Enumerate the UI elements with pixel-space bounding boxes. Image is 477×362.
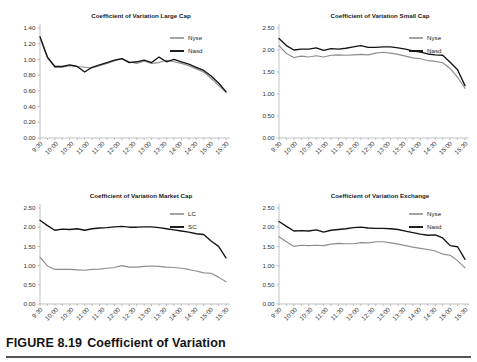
x-tick-label: 15:30	[453, 139, 469, 155]
x-tick-label: 14:00	[406, 305, 422, 321]
y-tick-label: 1.50	[23, 243, 36, 250]
x-tick-label: 14:30	[422, 139, 438, 155]
y-tick-label: 2.50	[262, 24, 275, 31]
x-tick-label: 13:00	[136, 305, 152, 321]
x-tick-label: 11:00	[314, 305, 330, 321]
x-tick-label: 11:00	[75, 139, 91, 155]
x-tick-label: 14:30	[183, 139, 199, 155]
x-tick-label: 10:30	[298, 139, 314, 155]
x-tick-label: 13:30	[152, 139, 168, 155]
x-tick-label: 9:30	[269, 139, 283, 153]
y-tick-label: 0.00	[262, 134, 275, 141]
series-line-sc	[40, 220, 226, 258]
x-tick-label: 12:30	[121, 305, 137, 321]
y-tick-label: 0.50	[262, 281, 275, 288]
figure-caption: FIGURE 8.19Coefficient of Variation	[0, 336, 477, 362]
y-tick-label: 2.50	[262, 204, 275, 211]
x-tick-label: 15:00	[198, 139, 214, 155]
series-line-nasd	[40, 37, 226, 92]
y-tick-label: 1.00	[262, 262, 275, 269]
chart-title: Coefficient of Variation Large Cap	[91, 12, 191, 19]
x-tick-label: 10:30	[298, 305, 314, 321]
x-tick-label: 12:00	[105, 305, 121, 321]
y-tick-label: 0.50	[262, 112, 275, 119]
x-tick-label: 12:00	[344, 305, 360, 321]
x-tick-label: 14:00	[167, 139, 183, 155]
x-tick-label: 10:00	[282, 139, 298, 155]
x-tick-label: 13:30	[152, 305, 168, 321]
y-tick-label: 0.50	[23, 281, 36, 288]
x-tick-label: 14:30	[422, 305, 438, 321]
x-tick-label: 15:00	[437, 139, 453, 155]
x-tick-label: 10:00	[282, 305, 298, 321]
x-tick-label: 12:30	[360, 305, 376, 321]
legend-label-nasd: Nasd	[188, 47, 203, 54]
x-tick-label: 15:30	[214, 139, 230, 155]
x-tick-label: 9:30	[269, 305, 283, 319]
x-tick-label: 13:00	[375, 305, 391, 321]
x-tick-label: 15:00	[437, 305, 453, 321]
x-tick-label: 12:30	[360, 139, 376, 155]
x-tick-label: 12:00	[344, 139, 360, 155]
x-tick-label: 11:00	[314, 139, 330, 155]
legend-label-nasd: Nasd	[427, 47, 442, 54]
legend-label-nasd: Nasd	[427, 223, 442, 230]
y-tick-label: 0.00	[262, 300, 275, 307]
chart-title: Coefficient of Variation Exchange	[331, 192, 430, 199]
x-tick-label: 10:00	[43, 139, 59, 155]
y-tick-label: 1.50	[262, 68, 275, 75]
figure-caption-title: Coefficient of Variation	[87, 336, 226, 350]
chart-small-cap: Coefficient of Variation Small Cap0.000.…	[239, 6, 477, 186]
x-tick-label: 15:30	[214, 305, 230, 321]
legend-label-nyse: Nyse	[188, 34, 203, 41]
x-tick-label: 9:30	[30, 139, 44, 153]
chart-title: Coefficient of Variation Small Cap	[330, 12, 429, 19]
y-tick-label: 2.00	[262, 46, 275, 53]
x-tick-label: 10:30	[59, 305, 75, 321]
x-tick-label: 10:30	[59, 139, 75, 155]
y-tick-label: 0.40	[23, 103, 36, 110]
y-tick-label: 0.20	[23, 118, 36, 125]
x-tick-label: 11:00	[75, 305, 91, 321]
y-tick-label: 2.50	[23, 204, 36, 211]
series-line-lc	[40, 257, 226, 282]
y-tick-label: 0.00	[23, 300, 36, 307]
x-tick-label: 9:30	[30, 305, 44, 319]
y-tick-label: 1.20	[23, 40, 36, 47]
figure-caption-text: FIGURE 8.19Coefficient of Variation	[6, 336, 226, 350]
y-tick-label: 1.00	[23, 56, 36, 63]
x-tick-label: 14:00	[167, 305, 183, 321]
y-tick-label: 1.00	[23, 262, 36, 269]
x-tick-label: 11:30	[329, 305, 345, 321]
y-tick-label: 1.50	[262, 243, 275, 250]
y-tick-label: 2.00	[23, 223, 36, 230]
legend-label-sc: SC	[188, 223, 197, 230]
x-tick-label: 13:00	[136, 139, 152, 155]
legend-label-nyse: Nyse	[427, 34, 442, 41]
y-tick-label: 0.00	[23, 134, 36, 141]
x-tick-label: 12:30	[121, 139, 137, 155]
x-tick-label: 12:00	[105, 139, 121, 155]
x-tick-label: 14:30	[183, 305, 199, 321]
x-tick-label: 11:30	[329, 139, 345, 155]
chart-panel-small-cap: Coefficient of Variation Small Cap0.000.…	[239, 6, 477, 186]
x-tick-label: 10:00	[43, 305, 59, 321]
chart-panel-large-cap: Coefficient of Variation Large Cap0.000.…	[0, 6, 238, 186]
chart-large-cap: Coefficient of Variation Large Cap0.000.…	[0, 6, 238, 186]
x-tick-label: 14:00	[406, 139, 422, 155]
x-tick-label: 13:30	[391, 305, 407, 321]
x-tick-label: 11:30	[90, 139, 106, 155]
y-tick-label: 1.40	[23, 24, 36, 31]
y-tick-label: 2.00	[262, 223, 275, 230]
legend-label-nyse: Nyse	[427, 210, 442, 217]
chart-title: Coefficient of Variation Market Cap	[90, 192, 193, 199]
series-line-nyse	[279, 237, 465, 268]
x-tick-label: 13:30	[391, 139, 407, 155]
x-tick-label: 15:30	[453, 305, 469, 321]
x-tick-label: 13:00	[375, 139, 391, 155]
y-tick-label: 1.00	[262, 90, 275, 97]
caption-divider	[6, 356, 471, 358]
y-tick-label: 0.60	[23, 87, 36, 94]
figure-caption-number: FIGURE 8.19	[6, 336, 82, 350]
y-tick-label: 0.80	[23, 71, 36, 78]
